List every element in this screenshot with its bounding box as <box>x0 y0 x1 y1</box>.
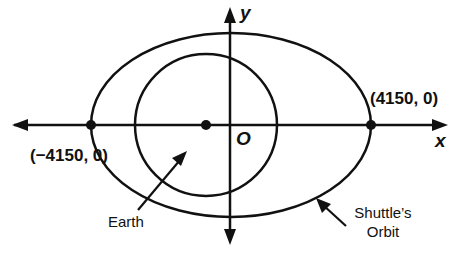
x-axis-label: x <box>435 130 446 152</box>
y-axis-arrow-up-icon <box>224 7 236 23</box>
y-axis-arrow-down-icon <box>224 229 236 245</box>
left-vertex-point <box>86 120 96 130</box>
orbit-pointer-arrow <box>316 198 346 226</box>
orbit-diagram: y x O (4150, 0) (−4150, 0) Earth Shuttle… <box>0 0 452 259</box>
shuttle-orbit-label-line1: Shuttle’s <box>348 203 418 222</box>
right-vertex-label: (4150, 0) <box>370 89 438 109</box>
left-vertex-label: (−4150, 0) <box>30 146 108 166</box>
shuttle-orbit-label: Shuttle’s Orbit <box>348 203 418 241</box>
right-vertex-point <box>366 120 376 130</box>
shuttle-orbit-label-line2: Orbit <box>348 222 418 241</box>
y-axis-label: y <box>240 2 251 24</box>
x-axis-arrow-left-icon <box>12 119 28 131</box>
earth-label: Earth <box>108 212 144 231</box>
earth-center-point <box>201 120 211 130</box>
origin-label: O <box>236 128 251 150</box>
